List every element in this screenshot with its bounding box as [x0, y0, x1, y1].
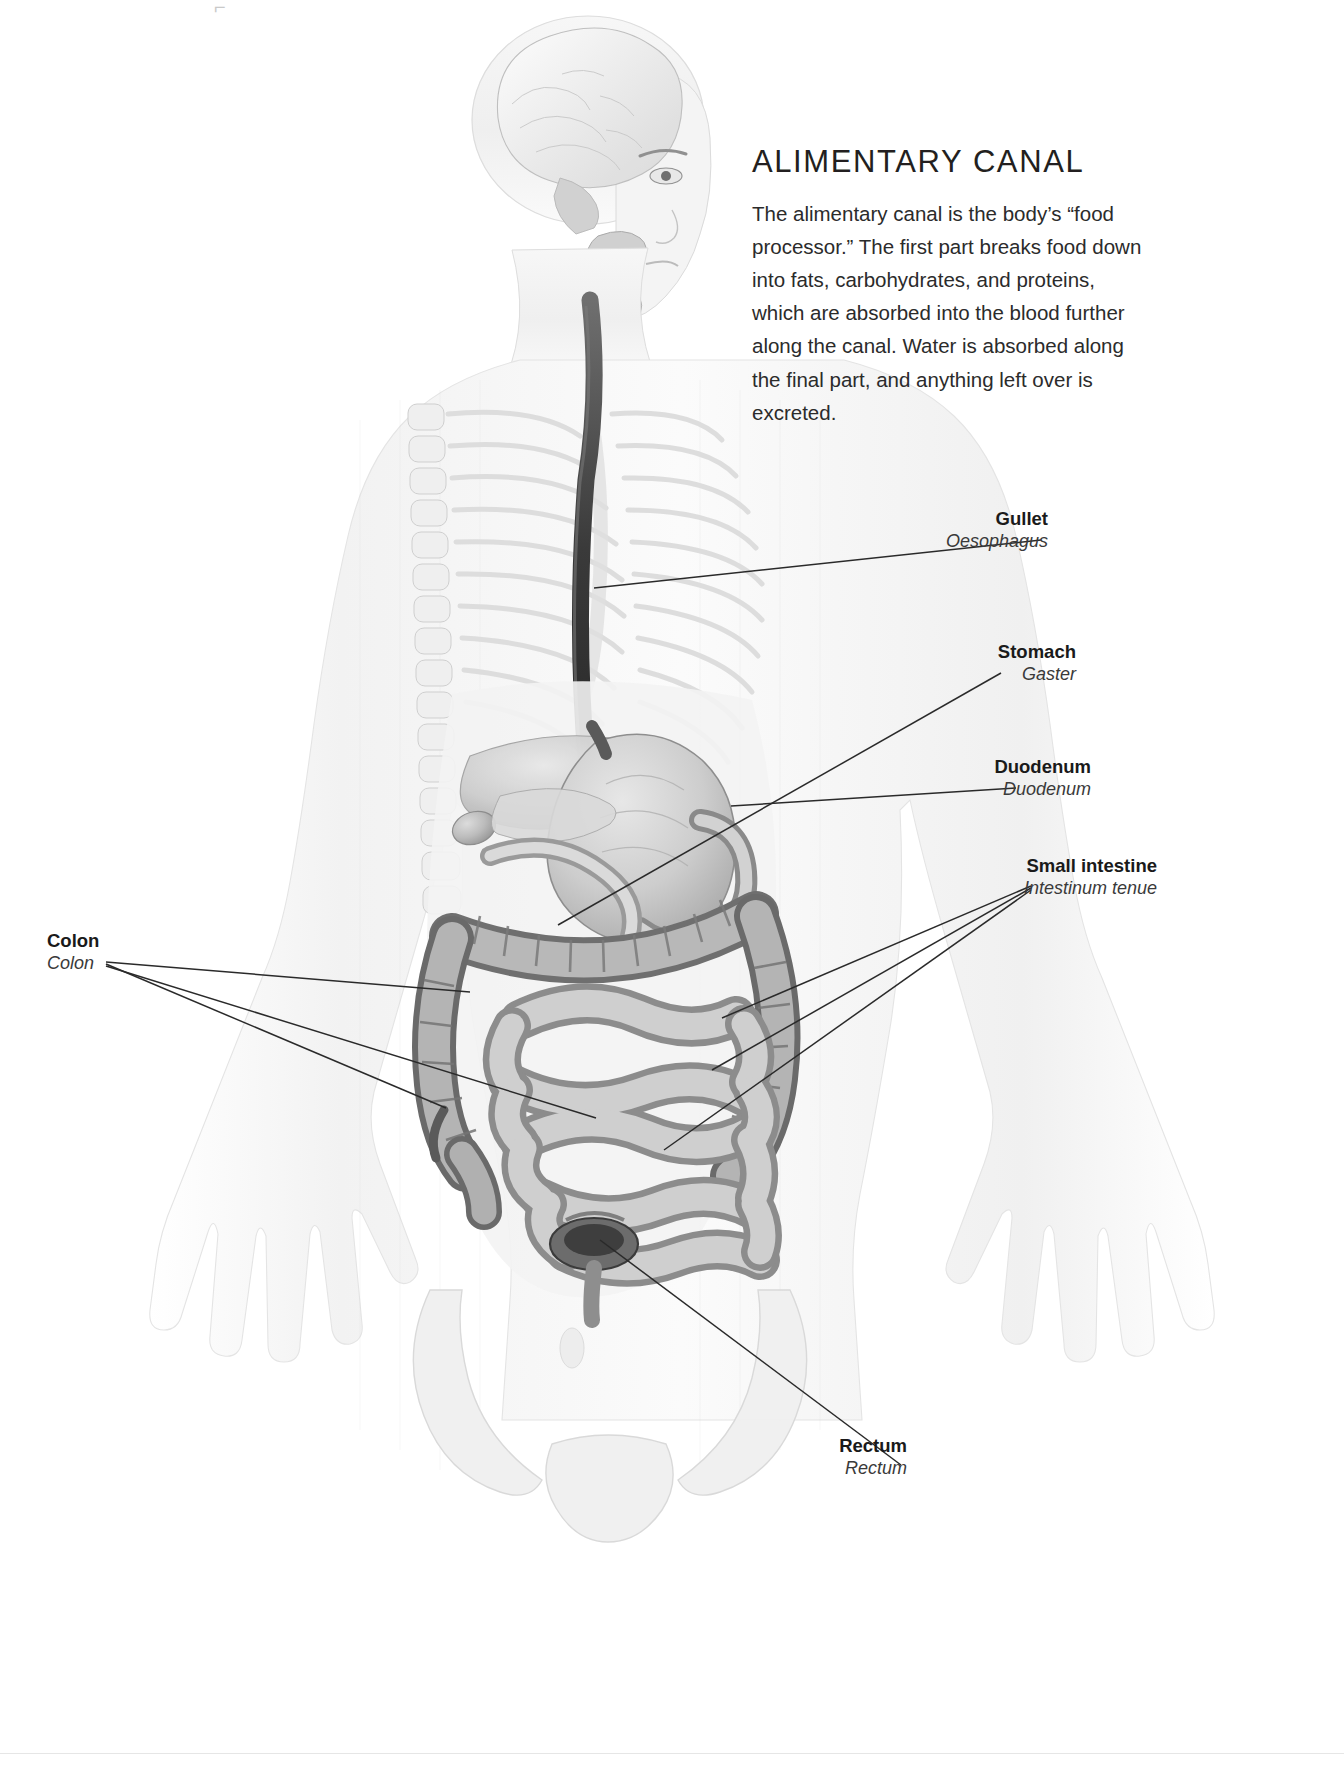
leader-line-colon [106, 962, 470, 992]
leader-line-duodenum [731, 788, 1016, 806]
label-gullet-common-name: Gullet [946, 508, 1048, 531]
label-small-intestine-common-name: Small intestine [1024, 855, 1157, 878]
leader-line-small-intestine [722, 886, 1031, 1018]
heading-block: ALIMENTARY CANAL The alimentary canal is… [752, 146, 1152, 429]
label-duodenum: DuodenumDuodenum [994, 756, 1091, 801]
label-gullet: GulletOesophagus [946, 508, 1048, 553]
label-stomach: StomachGaster [998, 641, 1076, 686]
label-colon: ColonColon [47, 930, 99, 975]
label-rectum-latin-name: Rectum [839, 1458, 907, 1480]
leader-line-rectum [600, 1240, 901, 1465]
leader-line-stomach [558, 673, 1001, 925]
label-rectum-common-name: Rectum [839, 1435, 907, 1458]
leader-line-small-intestine-3 [664, 890, 1031, 1150]
label-rectum: RectumRectum [839, 1435, 907, 1480]
page-title: ALIMENTARY CANAL [752, 146, 1152, 179]
label-colon-common-name: Colon [47, 930, 99, 953]
leader-line-colon-3 [106, 966, 596, 1118]
registration-mark: ⌐ [214, 0, 228, 14]
label-duodenum-common-name: Duodenum [994, 756, 1091, 779]
label-stomach-common-name: Stomach [998, 641, 1076, 664]
leader-line-colon-2 [106, 964, 446, 1108]
label-small-intestine: Small intestineIntestinum tenue [1024, 855, 1157, 900]
label-gullet-latin-name: Oesophagus [946, 531, 1048, 553]
page-bottom-rule [0, 1753, 1344, 1754]
illustration-page: ⌐ [0, 0, 1344, 1768]
label-stomach-latin-name: Gaster [998, 664, 1076, 686]
label-duodenum-latin-name: Duodenum [994, 779, 1091, 801]
label-small-intestine-latin-name: Intestinum tenue [1024, 878, 1157, 900]
intro-paragraph: The alimentary canal is the body’s “food… [752, 197, 1144, 429]
label-colon-latin-name: Colon [47, 953, 99, 975]
leader-line-small-intestine-2 [712, 888, 1031, 1070]
